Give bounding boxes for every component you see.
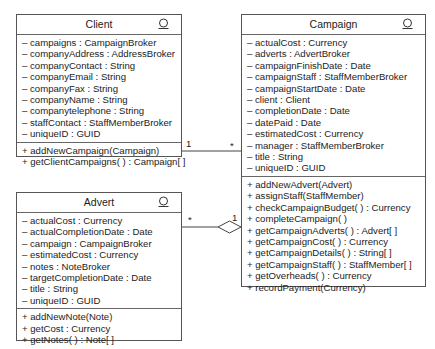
operation-list: + addNewNote(Note) + getCost : Currency … [17,308,181,347]
attribute: – estimatedCost : Currency [247,128,425,139]
attribute: – actualCost : Currency [247,37,425,48]
attribute: – targetCompletionDate : Date [22,272,181,283]
attribute: – title : String [247,151,425,162]
operation: + getCampaignStaff( ) : StaffMember[ ] [247,259,425,270]
operation: + getCampaignAdverts( ) : Advert[ ] [247,225,425,236]
operation: + checkCampaignBudget( ) : Currency [247,202,425,213]
class-header: Advert [17,193,181,213]
advert-multiplicity: * [188,214,192,225]
client-multiplicity: 1 [186,138,191,149]
attribute-list: – actualCost : Currency – actualCompleti… [17,213,181,308]
aggregation-diamond-icon [218,221,241,233]
attribute: – uniqueID : GUID [247,162,425,173]
attribute: – completionDate : Date [247,105,425,116]
entity-class-icon [158,18,169,30]
attribute: – companyAddress : AddressBroker [22,48,181,59]
attribute: – estimatedCost : Currency [22,249,181,260]
operation: + completeCampaign( ) [247,213,425,224]
attribute: – campaign : CampaignBroker [22,238,181,249]
attribute: – datePaid : Date [247,117,425,128]
operation: + getClientCampaigns( ) : Campaign[ ] [22,156,181,167]
attribute: – actualCost : Currency [22,215,181,226]
attribute: – staffContact : StaffMemberBroker [22,117,181,128]
attribute: – adverts : AdvertBroker [247,48,425,59]
attribute: – companyEmail : String [22,71,181,82]
class-name: Campaign [310,18,358,30]
attribute-list: – campaigns : CampaignBroker – companyAd… [17,35,181,142]
attribute: – notes : NoteBroker [22,261,181,272]
operation: + getOverheads( ) : Currency [247,270,425,281]
attribute: – companyFax : String [22,83,181,94]
entity-class-icon [158,196,169,208]
operation: + addNewNote(Note) [22,311,181,322]
attribute: – campaigns : CampaignBroker [22,37,181,48]
attribute: – companyName : String [22,94,181,105]
class-advert[interactable]: Advert – actualCost : Currency – actualC… [16,192,182,341]
class-campaign[interactable]: Campaign – actualCost : Currency – adver… [241,14,426,287]
operation: + getCampaignDetails( ) : String[ ] [247,247,425,258]
class-header: Client [17,15,181,35]
class-header: Campaign [242,15,425,35]
attribute: – title : String [22,283,181,294]
attribute-list: – actualCost : Currency – adverts : Adve… [242,35,425,176]
operation-list: + addNewCampaign(Campaign) + getClientCa… [17,142,181,170]
entity-class-icon [402,18,413,30]
class-name: Client [86,18,113,30]
attribute: – uniqueID : GUID [22,295,181,306]
attribute: – manager : StaffMemberBroker [247,140,425,151]
operation: + getCost : Currency [22,323,181,334]
attribute: – uniqueID : GUID [22,128,181,139]
operation: + addNewAdvert(Advert) [247,179,425,190]
operation: + recordPayment(Currency) [247,282,425,293]
operation: + addNewCampaign(Campaign) [22,145,181,156]
operation: + getCampaignCost( ) : Currency [247,236,425,247]
attribute: – companytelephone : String [22,105,181,116]
operation: + getNotes( ) : Note[ ] [22,334,181,345]
campaign-multiplicity: * [230,140,234,151]
operation: + assignStaff(StaffMember) [247,190,425,201]
attribute: – companyContact : String [22,60,181,71]
class-client[interactable]: Client – campaigns : CampaignBroker – co… [16,14,182,157]
attribute: – campaignFinishDate : Date [247,60,425,71]
class-name: Advert [84,196,114,208]
attribute: – client : Client [247,94,425,105]
attribute: – actualCompletionDate : Date [22,226,181,237]
operation-list: + addNewAdvert(Advert) + assignStaff(Sta… [242,176,425,295]
attribute: – campaignStartDate : Date [247,83,425,94]
attribute: – campaignStaff : StaffMemberBroker [247,71,425,82]
campaign-aggregate-multiplicity: 1 [232,212,237,223]
